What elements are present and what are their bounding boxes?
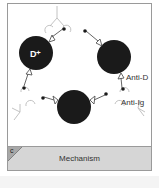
caption-band: c Mechanism <box>8 146 151 170</box>
label-anti-d: Anti-D <box>126 73 148 82</box>
panel-letter: c <box>10 147 14 154</box>
label-anti-ig: Anti-Ig <box>121 98 144 107</box>
cell-label-d-positive: D⁺ <box>30 49 42 59</box>
bottom-margin <box>0 176 159 188</box>
red-cell-bottom <box>57 90 91 124</box>
mechanism-diagram: D⁺ Anti-D Anti-Ig <box>8 4 151 148</box>
caption-label: Mechanism <box>8 154 151 163</box>
figure-panel: D⁺ Anti-D Anti-Ig c Mechanism <box>7 3 152 171</box>
